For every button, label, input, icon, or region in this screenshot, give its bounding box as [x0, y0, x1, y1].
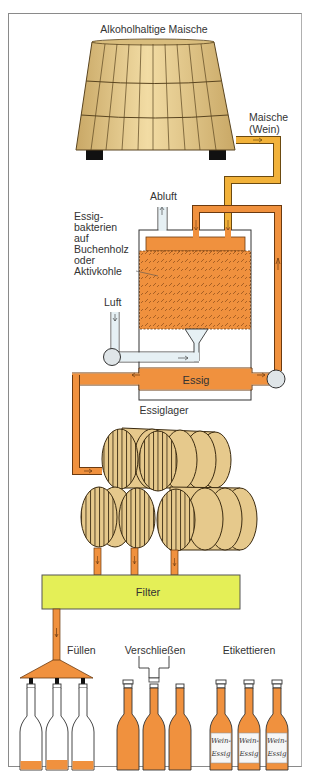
beech-wood-packing — [140, 251, 251, 329]
bottle-label-2b: Essig — [239, 749, 258, 760]
vinegar-storage-barrels — [81, 428, 257, 551]
label-essig: Essig — [183, 375, 210, 386]
bottle-label-3b: Essig — [267, 749, 286, 760]
vinegar-to-storage-pipe — [76, 375, 102, 473]
label-fuellen: Füllen — [67, 645, 96, 656]
label-maische: Maische — [249, 112, 288, 123]
label-luft: Luft — [104, 297, 122, 308]
bottles-filling — [20, 684, 94, 770]
title-mash: Alkoholhaltige Maische — [100, 24, 207, 35]
label-etikettieren: Etikettieren — [223, 645, 276, 656]
label-wein: (Wein) — [249, 124, 280, 135]
circulation-pump-icon — [267, 370, 285, 388]
label-filter: Filter — [136, 587, 160, 598]
label-abluft: Abluft — [150, 191, 177, 202]
bottles-capping — [117, 680, 191, 770]
bottle-label-3a: Wein- — [267, 736, 287, 747]
label-bacteria-6: Aktivkohle — [74, 266, 122, 277]
label-essiglager: Essiglager — [139, 405, 188, 416]
barrel-outlet-pipes — [94, 548, 178, 575]
label-verschliessen: Verschließen — [125, 645, 186, 656]
bottle-label-1a: Wein- — [211, 736, 231, 747]
bottle-label-2a: Wein- — [239, 736, 259, 747]
capping-tool-icon — [139, 656, 169, 678]
air-pump-icon — [104, 349, 121, 366]
acetator-vessel — [72, 207, 272, 400]
bottle-label-1b: Essig — [211, 749, 230, 760]
wine-pipe — [228, 138, 277, 232]
mash-vat — [76, 39, 235, 160]
